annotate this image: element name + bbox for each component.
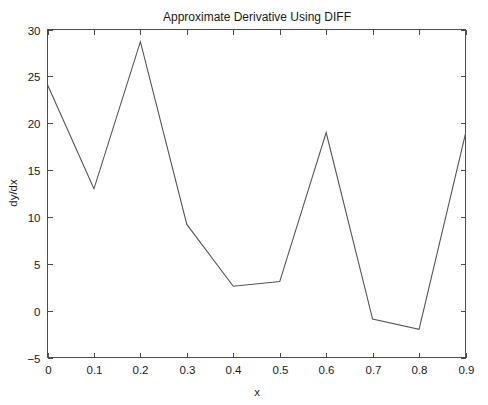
x-tick-label: 0.8	[412, 364, 428, 376]
x-axis-label: x	[254, 386, 260, 398]
y-tick-label: −5	[27, 353, 40, 365]
chart-title: Approximate Derivative Using DIFF	[163, 10, 351, 24]
y-tick-label: 25	[28, 71, 41, 83]
y-tick-label: 20	[28, 118, 41, 130]
y-tick-label: 10	[28, 212, 41, 224]
x-tick-label: 0.3	[180, 364, 196, 376]
figure-background	[0, 0, 488, 405]
x-tick-label: 0.1	[87, 364, 103, 376]
x-tick-label: 0.2	[133, 364, 149, 376]
figure-canvas: Approximate Derivative Using DIFF −50510…	[0, 0, 488, 405]
y-tick-label: 15	[28, 165, 41, 177]
x-tick-label: 0	[45, 364, 51, 376]
x-tick-label: 0.7	[366, 364, 382, 376]
chart-plot: Approximate Derivative Using DIFF −50510…	[0, 0, 488, 405]
x-tick-label: 0.5	[273, 364, 289, 376]
y-tick-label: 5	[34, 259, 40, 271]
y-tick-label: 30	[28, 25, 41, 37]
x-tick-label: 0.4	[226, 364, 243, 376]
x-tick-label: 0.9	[459, 364, 475, 376]
x-tick-label: 0.6	[319, 364, 335, 376]
y-axis-label: dy/dx	[7, 179, 19, 207]
y-tick-label: 0	[34, 306, 40, 318]
